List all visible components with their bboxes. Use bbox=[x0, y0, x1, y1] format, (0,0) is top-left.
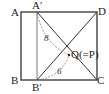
label-d: D bbox=[98, 5, 106, 17]
length-label-8: 8 bbox=[44, 33, 49, 43]
length-label-6: 6 bbox=[57, 66, 62, 76]
label-c: C bbox=[97, 74, 104, 86]
label-a: A bbox=[11, 6, 19, 18]
label-b-prime: B′ bbox=[32, 81, 42, 93]
geometry-figure: A A′ D B B′ C Q(=P) 8 6 bbox=[0, 0, 109, 94]
label-b: B bbox=[11, 74, 18, 86]
arc-b-prime-q bbox=[38, 55, 69, 80]
label-q-equals-p: Q(=P) bbox=[71, 48, 99, 61]
label-a-prime: A′ bbox=[32, 0, 42, 11]
point-q bbox=[68, 54, 70, 56]
